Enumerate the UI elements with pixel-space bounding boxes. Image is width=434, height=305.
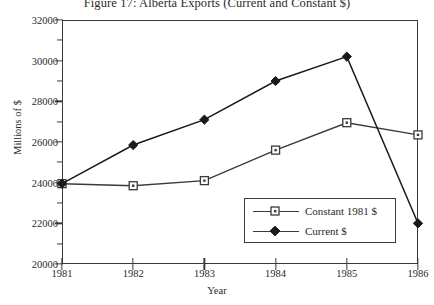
series-constant-1981 — [58, 119, 422, 190]
legend-label-constant: Constant 1981 $ — [305, 205, 377, 217]
data-point-marker — [271, 76, 280, 85]
data-point-center — [274, 149, 276, 151]
data-point-marker — [200, 115, 209, 124]
data-point-marker — [342, 52, 351, 61]
data-point-center — [417, 134, 419, 136]
chart-figure: Figure 17: Alberta Exports (Current and … — [0, 0, 434, 305]
legend-marker-open-square-icon — [245, 200, 305, 222]
data-point-center — [346, 121, 348, 123]
chart-legend: Constant 1981 $ Current $ — [244, 198, 396, 243]
legend-marker-filled-diamond-icon — [245, 220, 305, 242]
data-series-layer — [0, 0, 434, 305]
legend-item-constant: Constant 1981 $ — [245, 200, 397, 222]
data-point-marker — [129, 140, 138, 149]
data-point-marker — [413, 219, 422, 228]
data-point-center — [203, 179, 205, 181]
legend-item-current: Current $ — [245, 220, 397, 242]
data-point-center — [132, 185, 134, 187]
legend-label-current: Current $ — [305, 225, 347, 237]
